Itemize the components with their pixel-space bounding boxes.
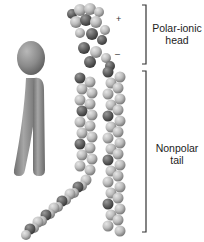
tail-label-line2: tail — [150, 154, 204, 166]
atom-dark — [103, 155, 114, 166]
atom-dark — [80, 14, 92, 26]
atom-light — [103, 89, 114, 100]
atom-light — [115, 204, 126, 215]
atom-light — [113, 83, 124, 94]
schematic-head — [17, 41, 45, 75]
atom-light — [115, 116, 126, 127]
atom-dark — [78, 42, 90, 54]
atom-dark — [86, 28, 98, 40]
atom-light — [113, 149, 124, 160]
atom-light — [113, 105, 124, 116]
atom-light — [70, 16, 82, 28]
atom-dark — [75, 139, 86, 150]
atom-light — [87, 110, 98, 121]
atom-light — [103, 221, 114, 232]
negative-charge-label: – — [115, 50, 120, 59]
atom-dark — [103, 199, 114, 210]
atom-light — [21, 230, 31, 240]
atom-light — [90, 46, 102, 58]
atom-light — [75, 28, 85, 38]
atom-light — [113, 193, 124, 204]
head-bracket — [142, 5, 146, 64]
tail-bracket — [142, 71, 146, 232]
positive-charge-label: + — [116, 15, 121, 24]
atom-light — [87, 88, 98, 99]
atom-dark — [75, 73, 86, 84]
atom-light — [115, 182, 126, 193]
atom-light — [87, 132, 98, 143]
atom-light — [75, 161, 86, 172]
atom-light — [85, 165, 96, 176]
atom-light — [103, 133, 114, 144]
atom-dark — [84, 56, 96, 68]
head-label: Polar-ionic head — [150, 22, 204, 46]
atom-light — [87, 154, 98, 165]
atom-light — [94, 7, 104, 17]
atom-dark — [103, 67, 114, 78]
atom-light — [103, 177, 114, 188]
atom-light — [75, 95, 86, 106]
atom-light — [115, 94, 126, 105]
atom-light — [75, 117, 86, 128]
atom-dark — [77, 106, 88, 117]
atom-light — [113, 127, 124, 138]
atom-light — [77, 84, 88, 95]
tail-label-line1: Nonpolar — [150, 142, 204, 154]
atom-light — [100, 25, 110, 35]
atom-dark — [103, 111, 114, 122]
atom-light — [115, 138, 126, 149]
atom-light — [77, 128, 88, 139]
atom-light — [90, 16, 102, 28]
tail-label: Nonpolar tail — [150, 142, 204, 166]
atom-dark — [97, 35, 107, 45]
atom-light — [115, 72, 126, 83]
atom-light — [115, 160, 126, 171]
atom-light — [113, 215, 124, 226]
schematic-phospholipid — [14, 41, 45, 176]
head-label-line1: Polar-ionic — [150, 22, 204, 34]
atom-light — [115, 226, 126, 237]
schematic-tail-right — [33, 78, 45, 176]
atom-light — [77, 150, 88, 161]
atom-light — [113, 171, 124, 182]
head-label-line2: head — [150, 34, 204, 46]
